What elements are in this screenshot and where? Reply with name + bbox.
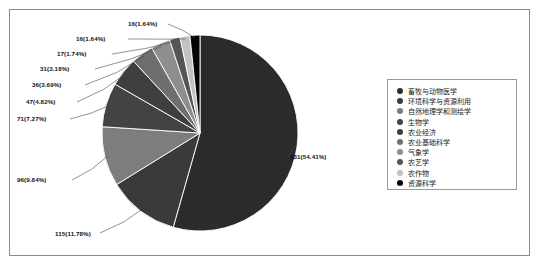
- legend-color-swatch-icon: [397, 98, 403, 104]
- legend-item-label: 资源科学: [408, 178, 436, 188]
- legend-item-label: 气象学: [408, 147, 429, 157]
- legend-color-swatch-icon: [397, 159, 403, 165]
- slice-label-2: 96(9.84%): [17, 177, 46, 183]
- legend-item[interactable]: 资源科学: [397, 178, 516, 188]
- legend-item-label: 畜牧与动物医学: [408, 86, 457, 96]
- legend-item[interactable]: 畜牧与动物医学: [397, 86, 516, 96]
- legend-item[interactable]: 农艺学: [397, 157, 516, 167]
- legend-item-label: 农业基础科学: [408, 137, 450, 147]
- legend-item-label: 农艺学: [408, 157, 429, 167]
- legend-item[interactable]: 气象学: [397, 147, 516, 157]
- legend-item[interactable]: 农业经济: [397, 127, 516, 137]
- legend-color-swatch-icon: [397, 108, 403, 114]
- legend-color-swatch-icon: [397, 129, 403, 135]
- legend-item-label: 环境科学与资源利用: [408, 96, 471, 106]
- legend-color-swatch-icon: [397, 170, 403, 176]
- slice-label-6: 31(3.18%): [40, 66, 69, 72]
- legend-item-label: 农业经济: [408, 127, 436, 137]
- pie-slice-group: [102, 35, 298, 231]
- legend-item[interactable]: 环境科学与资源利用: [397, 96, 516, 106]
- slice-label-3: 71(7.27%): [17, 116, 46, 122]
- leader-line: [72, 156, 108, 180]
- legend-color-swatch-icon: [397, 119, 403, 125]
- legend-item-label: 农作物: [408, 168, 429, 178]
- slice-label-4: 47(4.82%): [26, 99, 55, 105]
- legend-item-label: 生物学: [408, 117, 429, 127]
- legend-item[interactable]: 农业基础科学: [397, 137, 516, 147]
- slice-label-1: 115(11.78%): [55, 231, 91, 237]
- pie-chart-figure: 531(54.41%) 115(11.78%) 96(9.84%) 71(7.2…: [0, 0, 540, 265]
- slice-label-0: 531(54.41%): [290, 154, 327, 160]
- legend-color-swatch-icon: [397, 180, 403, 186]
- legend-color-swatch-icon: [397, 139, 403, 145]
- legend-item[interactable]: 生物学: [397, 117, 516, 127]
- legend-color-swatch-icon: [397, 149, 403, 155]
- legend-item-label: 自然地理学和测绘学: [408, 106, 471, 116]
- legend-item[interactable]: 自然地理学和测绘学: [397, 106, 516, 116]
- slice-label-9: 16(1.64%): [128, 21, 157, 27]
- slice-label-5: 36(3.69%): [32, 82, 61, 88]
- slice-label-8: 16(1.64%): [76, 36, 105, 42]
- legend-color-swatch-icon: [397, 88, 403, 94]
- slice-label-7: 17(1.74%): [57, 51, 86, 57]
- leader-line: [100, 209, 143, 233]
- chart-legend: 畜牧与动物医学环境科学与资源利用自然地理学和测绘学生物学农业经济农业基础科学气象…: [387, 79, 517, 190]
- legend-item[interactable]: 农作物: [397, 168, 516, 178]
